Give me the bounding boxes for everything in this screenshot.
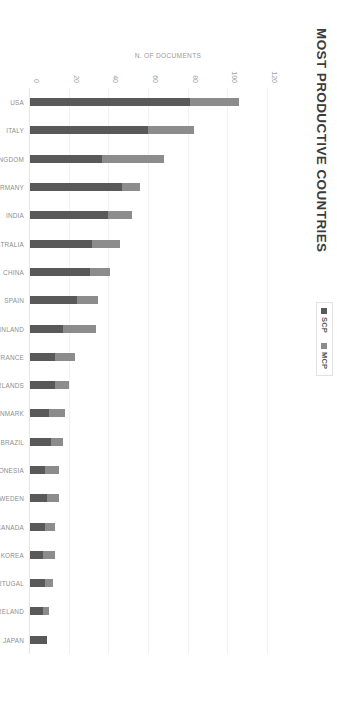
page-title: MOST PRODUCTIVE COUNTRIES [314, 28, 329, 253]
bar-stack[interactable] [29, 438, 63, 446]
category-axis-tick-label: SPAIN [4, 297, 24, 304]
bar-stack[interactable] [29, 466, 59, 474]
bar-segment-scp[interactable] [29, 296, 77, 304]
category-axis-tick-label: AUSTRALIA [0, 240, 24, 247]
bar-stack[interactable] [29, 98, 239, 106]
category-axis-tick-label: BRAZIL [0, 438, 24, 445]
bar-stack[interactable] [29, 579, 53, 587]
bar-segment-scp[interactable] [29, 409, 49, 417]
bar-stack[interactable] [29, 353, 75, 361]
bar-group[interactable]: DENMARK [29, 399, 267, 427]
bar-segment-scp[interactable] [29, 126, 148, 134]
category-axis-tick-label: CANADA [0, 523, 24, 530]
bar-segment-scp[interactable] [29, 607, 43, 615]
bar-group[interactable]: SPAIN [29, 286, 267, 314]
bar-stack[interactable] [29, 523, 55, 531]
bar-stack[interactable] [29, 240, 120, 248]
value-axis-tick-label: 100 [231, 71, 238, 83]
bar-segment-mcp[interactable] [122, 183, 140, 191]
bar-stack[interactable] [29, 155, 164, 163]
bar-stack[interactable] [29, 636, 47, 644]
bar-segment-mcp[interactable] [45, 579, 53, 587]
bar-segment-scp[interactable] [29, 579, 45, 587]
bar-segment-scp[interactable] [29, 353, 55, 361]
bar-segment-scp[interactable] [29, 325, 63, 333]
bar-segment-mcp[interactable] [43, 551, 55, 559]
legend-item-scp: SCP [320, 308, 329, 333]
bar-group[interactable]: ITALY [29, 116, 267, 144]
bar-stack[interactable] [29, 126, 194, 134]
bar-segment-mcp[interactable] [51, 438, 63, 446]
bar-segment-scp[interactable] [29, 98, 190, 106]
bar-group[interactable]: IRELAND [29, 597, 267, 625]
bar-segment-mcp[interactable] [43, 607, 49, 615]
bar-segment-mcp[interactable] [108, 211, 132, 219]
bar-segment-mcp[interactable] [77, 296, 99, 304]
bar-group[interactable]: PORTUGAL [29, 569, 267, 597]
bar-group[interactable]: USA [29, 88, 267, 116]
rotated-figure-wrapper: MOST PRODUCTIVE COUNTRIES SCP MCP N. OF … [0, 0, 337, 724]
category-axis-tick-label: NETHERLANDS [0, 382, 24, 389]
value-axis-title: N. OF DOCUMENTS [135, 52, 201, 59]
bar-segment-scp[interactable] [29, 636, 47, 644]
gridline [267, 88, 268, 654]
bar-segment-scp[interactable] [29, 183, 122, 191]
chart-legend: SCP MCP [316, 302, 333, 376]
bar-segment-scp[interactable] [29, 381, 55, 389]
bar-stack[interactable] [29, 381, 69, 389]
bar-stack[interactable] [29, 409, 65, 417]
category-axis-tick-label: PORTUGAL [0, 580, 24, 587]
bar-stack[interactable] [29, 325, 96, 333]
bar-segment-mcp[interactable] [190, 98, 240, 106]
bar-group[interactable]: CANADA [29, 512, 267, 540]
bar-segment-mcp[interactable] [90, 268, 110, 276]
bar-stack[interactable] [29, 211, 132, 219]
bar-segment-scp[interactable] [29, 155, 102, 163]
category-axis-tick-label: GERMANY [0, 184, 24, 191]
bar-stack[interactable] [29, 183, 140, 191]
bar-group[interactable]: UNITED KINGDOM [29, 145, 267, 173]
bar-segment-mcp[interactable] [92, 240, 120, 248]
bar-group[interactable]: INDIA [29, 201, 267, 229]
bar-stack[interactable] [29, 607, 49, 615]
bar-segment-mcp[interactable] [148, 126, 194, 134]
bar-group[interactable]: CHINA [29, 258, 267, 286]
bar-group[interactable]: KOREA [29, 541, 267, 569]
category-axis-tick-label: USA [10, 99, 24, 106]
bar-segment-mcp[interactable] [47, 494, 59, 502]
legend-swatch-mcp [322, 343, 328, 349]
value-axis-tick-label: 20 [72, 75, 79, 83]
category-axis-tick-label: JAPAN [3, 636, 24, 643]
plot-area: 020406080100120 USAITALYUNITED KINGDOMGE… [29, 88, 267, 654]
bar-group[interactable]: BRAZIL [29, 428, 267, 456]
bar-segment-mcp[interactable] [45, 523, 55, 531]
bar-segment-scp[interactable] [29, 523, 45, 531]
bar-stack[interactable] [29, 268, 110, 276]
bar-stack[interactable] [29, 551, 55, 559]
bar-group[interactable]: GERMANY [29, 173, 267, 201]
bar-group[interactable]: INDONESIA [29, 456, 267, 484]
bar-segment-scp[interactable] [29, 438, 51, 446]
bar-group[interactable]: NETHERLANDS [29, 371, 267, 399]
bar-group[interactable]: FRANCE [29, 343, 267, 371]
bar-segment-scp[interactable] [29, 494, 47, 502]
bar-segment-scp[interactable] [29, 211, 108, 219]
bar-segment-mcp[interactable] [102, 155, 163, 163]
bar-stack[interactable] [29, 494, 59, 502]
bar-segment-mcp[interactable] [55, 381, 69, 389]
bar-group[interactable]: FINLAND [29, 314, 267, 342]
bar-segment-scp[interactable] [29, 551, 43, 559]
bar-segment-mcp[interactable] [55, 353, 75, 361]
category-axis-tick-label: DENMARK [0, 410, 24, 417]
bar-group[interactable]: AUSTRALIA [29, 229, 267, 257]
bar-segment-scp[interactable] [29, 466, 45, 474]
bar-group[interactable]: JAPAN [29, 626, 267, 654]
bar-segment-mcp[interactable] [63, 325, 97, 333]
value-axis-tick-label: 120 [271, 71, 278, 83]
bar-segment-mcp[interactable] [49, 409, 65, 417]
bar-segment-scp[interactable] [29, 240, 92, 248]
bar-segment-scp[interactable] [29, 268, 90, 276]
bar-stack[interactable] [29, 296, 98, 304]
bar-group[interactable]: SWEDEN [29, 484, 267, 512]
bar-segment-mcp[interactable] [45, 466, 59, 474]
